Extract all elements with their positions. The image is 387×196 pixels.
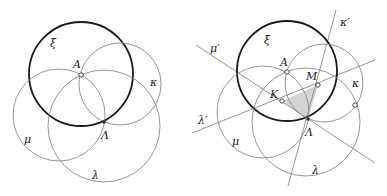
- point-label-a: A: [279, 56, 288, 69]
- point-k: [280, 99, 284, 103]
- point-label-lambda: Λ: [304, 126, 313, 139]
- circle-label-lambda: λ: [311, 164, 319, 177]
- circle-lambda: [252, 68, 360, 176]
- point-lambda: [306, 117, 310, 121]
- point-a: [79, 73, 83, 77]
- circle-label-mu: μ: [24, 133, 31, 146]
- circle-label-xi: ξ: [50, 37, 57, 50]
- point-label-k: K: [269, 88, 279, 101]
- point-p: [353, 103, 357, 107]
- point-lambda: [102, 120, 106, 124]
- circle-label-lambda: λ: [91, 169, 99, 182]
- point-label-m: M: [305, 70, 318, 83]
- circle-label-xi: ξ: [264, 34, 271, 47]
- diagram-canvas: ξκμλAΛ μ′λ′κ′ξκμλAMKΛ: [0, 0, 387, 196]
- circle-label-mu: μ: [232, 135, 239, 148]
- circle-mu: [217, 66, 309, 158]
- point-m: [316, 83, 320, 87]
- point-label-lambda: Λ: [100, 129, 109, 142]
- right-figure: μ′λ′κ′ξκμλAMKΛ: [192, 10, 375, 186]
- point-label-a: A: [72, 58, 81, 71]
- circle-mu: [13, 69, 105, 161]
- circle-kappa: [79, 43, 161, 125]
- line-label-kappa-prime: κ′: [339, 16, 350, 29]
- circle-label-kappa: κ: [351, 77, 360, 90]
- circle-label-kappa: κ: [149, 76, 158, 89]
- line-label-mu-prime: μ′: [210, 42, 220, 55]
- point-a: [285, 70, 289, 74]
- line-label-lambda-prime: λ′: [197, 114, 208, 127]
- left-figure: ξκμλAΛ: [13, 22, 161, 182]
